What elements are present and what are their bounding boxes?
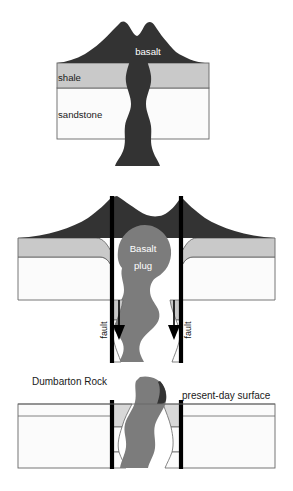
sandstone-slab-right: [181, 257, 275, 300]
ground-block-right: [182, 404, 275, 468]
interior-block-right-mid: [171, 427, 180, 452]
panel-stage-3-present-day: Dumbarton Rock present-day surface: [18, 376, 275, 469]
label-present-day-surface: present-day surface: [182, 390, 271, 401]
interior-block-right-lower: [165, 452, 180, 468]
dumbarton-rock-plug: [120, 376, 166, 468]
interior-block-left-mid: [113, 427, 122, 452]
label-sandstone: sandstone: [58, 109, 102, 120]
sandstone-slab-left: [18, 257, 112, 300]
label-basalt: basalt: [135, 46, 161, 57]
label-fault-right: fault: [183, 321, 193, 339]
panel-stage-1-active-volcano: basalt shale sandstone: [57, 22, 209, 166]
label-basalt-plug-line2: plug: [134, 260, 152, 271]
label-basalt-plug-line1: Basalt: [130, 243, 157, 254]
label-dumbarton-rock: Dumbarton Rock: [32, 376, 108, 387]
label-fault-left: fault: [99, 321, 109, 339]
label-shale: shale: [58, 72, 81, 83]
interior-block-right-upper: [163, 404, 180, 427]
panel-stage-2-faulting: Basalt plug fault fault: [18, 196, 275, 363]
ground-block-left: [18, 404, 111, 468]
geology-diagram-figure: basalt shale sandstone: [0, 0, 293, 491]
basalt-flow-right-wing: [181, 197, 275, 238]
diagram-canvas: basalt shale sandstone: [0, 0, 293, 491]
basalt-flow-left-wing: [18, 197, 112, 238]
basalt-volcano-mass: [57, 22, 205, 63]
